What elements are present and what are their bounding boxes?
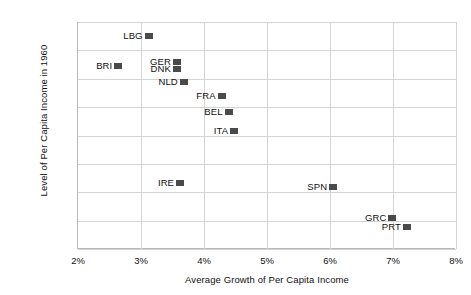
data-point-marker[interactable] <box>180 79 188 85</box>
data-point-label: IRE <box>90 177 174 188</box>
data-point-marker[interactable] <box>218 93 226 99</box>
x-tick-label: 7% <box>373 255 413 266</box>
data-point-marker[interactable] <box>225 109 233 115</box>
gridline-vertical <box>456 22 457 249</box>
data-point-marker[interactable] <box>173 66 181 72</box>
data-point-label: NLD <box>94 76 178 87</box>
plot-area: $2,000$3,000$4,000$5,000$6,000$7,000$8,0… <box>77 22 455 249</box>
data-point-label: SPN <box>243 181 327 192</box>
data-point-label: LBG <box>59 30 143 41</box>
data-point-label: ITA <box>144 125 228 136</box>
data-point-marker[interactable] <box>145 33 153 39</box>
data-point-label: BEL <box>139 106 223 117</box>
y-axis-title: Level of Per Capita Income in 1960 <box>38 1 49 241</box>
x-tick-label: 2% <box>58 255 98 266</box>
data-point-label: DNK <box>87 63 171 74</box>
x-tick-label: 5% <box>247 255 287 266</box>
x-tick-label: 6% <box>310 255 350 266</box>
data-point-marker[interactable] <box>403 224 411 230</box>
data-point-label: FRA <box>132 90 216 101</box>
x-axis-title: Average Growth of Per Capita Income <box>78 274 456 285</box>
data-point-marker[interactable] <box>173 59 181 65</box>
scatter-chart: Level of Per Capita Income in 1960 $2,00… <box>0 0 471 295</box>
x-tick-label: 3% <box>121 255 161 266</box>
data-point-label: PRT <box>317 221 401 232</box>
data-point-marker[interactable] <box>329 184 337 190</box>
x-tick-label: 8% <box>436 255 471 266</box>
data-point-marker[interactable] <box>230 128 238 134</box>
x-tick-label: 4% <box>184 255 224 266</box>
gridline-vertical <box>267 22 268 249</box>
data-point-marker[interactable] <box>176 180 184 186</box>
gridline-horizontal <box>78 249 456 250</box>
